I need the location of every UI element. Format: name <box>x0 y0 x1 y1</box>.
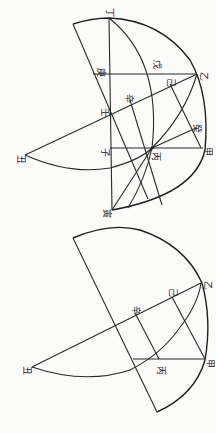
ray-2 <box>170 84 201 148</box>
point-label: 乙 <box>199 72 209 81</box>
point-label: 丁 <box>105 8 115 17</box>
point-label: 庚 <box>96 68 107 77</box>
point-labels: 丁乙戊己庚辛壬癸甲丙子丑寅乙己辛甲丙丑 <box>16 8 215 375</box>
point-label: 己 <box>166 78 176 87</box>
point-label: 癸 <box>192 124 203 133</box>
top-figure <box>25 18 206 210</box>
lower-arc <box>32 283 201 377</box>
point-label: 壬 <box>100 108 110 117</box>
point-label: 子 <box>100 148 110 157</box>
bottom-figure <box>32 227 208 412</box>
point-label: 辛 <box>131 306 142 315</box>
point-label: 己 <box>168 288 178 297</box>
point-label: 丙 <box>151 152 161 161</box>
outer-arc <box>73 227 208 412</box>
ray-1 <box>135 313 159 359</box>
point-label: 丙 <box>156 366 166 375</box>
left-edge <box>73 238 157 412</box>
point-label: 辛 <box>124 94 135 103</box>
point-label: 甲 <box>203 147 213 156</box>
point-label: 寅 <box>102 209 113 218</box>
outer-arc <box>73 18 206 210</box>
point-label: 甲 <box>205 359 215 368</box>
center-point <box>151 147 154 150</box>
geometric-diagram: 丁乙戊己庚辛壬癸甲丙子丑寅乙己辛甲丙丑 <box>0 0 216 433</box>
ray-3 <box>152 128 196 148</box>
point-label: 丑 <box>16 155 26 164</box>
point-label: 丑 <box>22 366 32 375</box>
ray-2 <box>172 297 205 359</box>
point-label: 戊 <box>152 60 163 69</box>
point-label: 乙 <box>203 281 213 290</box>
